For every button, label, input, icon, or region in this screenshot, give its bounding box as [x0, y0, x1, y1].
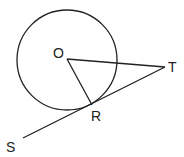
segment-or — [67, 59, 92, 105]
label-s: S — [6, 139, 15, 155]
tangent-line-st — [23, 67, 165, 138]
geometry-diagram: O T R S — [0, 0, 184, 157]
label-r: R — [91, 108, 101, 124]
label-t: T — [168, 59, 177, 75]
label-o: O — [53, 45, 64, 61]
segment-ot — [67, 59, 165, 67]
